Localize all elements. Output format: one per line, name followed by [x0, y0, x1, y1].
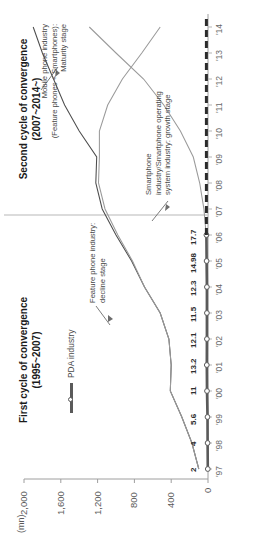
x-tick-99: '99 [214, 414, 224, 425]
data-label-pda-99: 5.6 [189, 414, 198, 425]
legend-label-pda: PDA industry [66, 330, 76, 378]
annotation-mobile-phone-line2: (Feature phones + Smartphones): [50, 24, 60, 184]
x-tick-10: '10 [214, 128, 224, 139]
x-tick-00: '00 [214, 388, 224, 399]
x-tick-97: '97 [214, 466, 224, 477]
y-tick-400: 400 [165, 492, 176, 508]
x-tick-04: '04 [214, 284, 224, 295]
data-label-pda-04: 12.3 [189, 280, 198, 296]
x-tick-09: '09 [214, 154, 224, 165]
x-axis-ticks [208, 27, 212, 469]
data-label-pda-05: 14.98 [189, 253, 198, 273]
data-label-pda-98: 4 [189, 442, 198, 446]
data-label-pda-03: 11.5 [189, 307, 198, 322]
x-tick-02: '02 [214, 336, 224, 347]
y-axis-unit-label: (mn) [16, 515, 26, 534]
annotation-smartphone: Smartphone industry/Smartphone operating… [144, 20, 173, 195]
first-cycle-title-line2: (1995~2007) [31, 285, 44, 435]
first-cycle-title: First cycle of convergence (1995~2007) [18, 285, 43, 435]
legend-line-marker-icon [70, 383, 73, 413]
chart-figure: (mn) 2,000 1,600 1,200 800 400 0 '97 '98… [0, 0, 262, 539]
x-tick-07: '07 [214, 206, 224, 217]
annotation-mobile-phone: Mobile phone industry (Feature phones + … [40, 24, 69, 184]
y-tick-1200: 1,200 [92, 491, 103, 515]
series-pda-solid [206, 235, 207, 469]
second-cycle-title-line1: Second cycle of convergence [18, 29, 31, 189]
legend: PDA industry [66, 330, 76, 413]
annotation-mobile-phone-line1: Mobile phone industry [40, 24, 50, 184]
annotation-smartphone-line2: industry/Smartphone operating [154, 20, 164, 195]
y-tick-1600: 1,600 [55, 491, 66, 515]
y-tick-2000: 2,000 [18, 491, 29, 515]
x-tick-12: '12 [214, 76, 224, 87]
annotation-feature-phone-line2: decline stage [98, 183, 108, 303]
annotation-smartphone-line1: Smartphone [144, 20, 154, 195]
x-tick-05: '05 [214, 258, 224, 269]
annotation-feature-phone: Feature phone industry: decline stage [88, 183, 107, 303]
annotation-feature-phone-line1: Feature phone industry: [88, 183, 98, 303]
data-label-pda-02: 12.1 [189, 332, 198, 348]
data-label-pda-00: 11 [189, 387, 198, 395]
y-tick-0: 0 [202, 488, 213, 493]
data-label-pda-06: 17.7 [189, 229, 198, 245]
y-axis-ticks [24, 479, 208, 483]
x-tick-11: '11 [214, 103, 224, 113]
x-tick-03: '03 [214, 310, 224, 321]
x-tick-13: '13 [214, 50, 224, 61]
x-tick-98: '98 [214, 440, 224, 451]
y-tick-800: 800 [128, 492, 139, 508]
data-label-pda-01: 13.2 [189, 358, 198, 374]
x-tick-01: '01 [214, 362, 224, 373]
chart-plot-area: (mn) 2,000 1,600 1,200 800 400 0 '97 '98… [0, 0, 262, 539]
x-tick-06: '06 [214, 232, 224, 243]
annotation-smartphone-line3: system industry: growth stage [163, 20, 173, 195]
annotation-mobile-phone-line3: Maturity stage [59, 24, 69, 184]
data-label-pda-97: 2 [189, 468, 198, 472]
x-tick-08: '08 [214, 180, 224, 191]
x-tick-14: '14 [214, 24, 224, 35]
first-cycle-title-line1: First cycle of convergence [18, 285, 31, 435]
